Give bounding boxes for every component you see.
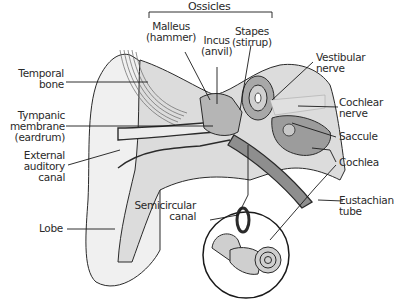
external-auditory-canal-label: External auditory canal xyxy=(24,150,65,183)
ossicles-label: Ossicles xyxy=(188,1,230,12)
cochlear-nerve-label: Cochlear nerve xyxy=(339,97,383,119)
semicircular-canal-label: Semicircular canal xyxy=(134,200,196,222)
lobe-label: Lobe xyxy=(39,223,63,234)
incus-label: Incus (anvil) xyxy=(201,35,232,57)
temporal-bone-label: Temporal bone xyxy=(18,68,64,90)
malleus-label: Malleus (hammer) xyxy=(146,21,196,43)
saccule-label: Saccule xyxy=(339,131,378,142)
stapes-label: Stapes (stirrup) xyxy=(232,26,272,48)
vestibular-nerve-label: Vestibular nerve xyxy=(316,52,365,74)
eustachian-tube-label: Eustachian tube xyxy=(339,195,394,217)
tympanic-membrane-label: Tympanic membrane (eardrum) xyxy=(10,110,65,143)
cochlea-label: Cochlea xyxy=(339,157,379,168)
